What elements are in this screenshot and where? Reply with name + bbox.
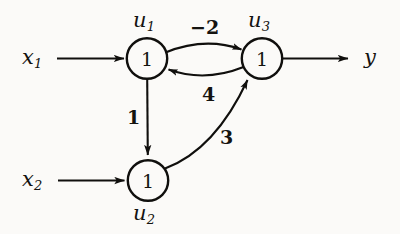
- node-label-u1: u1: [133, 10, 155, 33]
- node-value-u1: 1: [141, 50, 153, 69]
- edge-u3-to-u1: [169, 67, 244, 75]
- edge-weight-u1-u3: −2: [190, 18, 219, 37]
- node-label-u3: u3: [248, 10, 270, 33]
- node-label-u2: u2: [133, 203, 155, 226]
- input-label-x2: x2: [22, 169, 42, 192]
- input-label-x1-sub: 1: [34, 56, 42, 71]
- edge-weight-u1-u2: 1: [127, 108, 140, 127]
- input-label-x2-sub: 2: [34, 178, 42, 193]
- edge-weight-u2-u3: 3: [220, 128, 233, 147]
- figure-canvas: x1 x2 y u1 u3 u2 1 1 1 −2 4 1 3: [0, 0, 400, 234]
- edge-weight-u3-u1: 4: [202, 85, 215, 104]
- node-label-u1-sub: 1: [147, 19, 155, 34]
- node-value-u2: 1: [142, 172, 154, 191]
- edge-u1-to-u2: [147, 79, 148, 155]
- input-label-x2-base: x: [22, 167, 34, 191]
- input-label-x1-base: x: [22, 45, 34, 69]
- input-label-x1: x1: [22, 47, 42, 70]
- node-label-u3-sub: 3: [262, 19, 270, 34]
- node-label-u3-base: u: [248, 8, 262, 32]
- node-label-u1-base: u: [133, 8, 147, 32]
- output-label-y: y: [364, 47, 376, 68]
- node-label-u2-base: u: [133, 201, 147, 225]
- node-label-u2-sub: 2: [147, 212, 155, 227]
- node-value-u3: 1: [256, 50, 268, 69]
- edge-u1-to-u3: [166, 44, 242, 53]
